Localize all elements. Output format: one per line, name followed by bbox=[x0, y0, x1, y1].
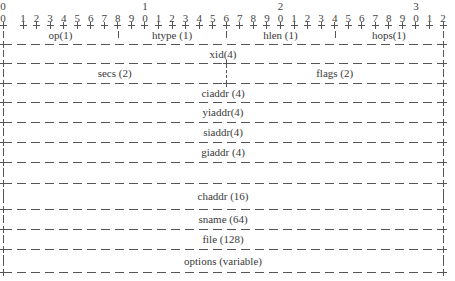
row-divider bbox=[3, 183, 443, 184]
row-corner-mark bbox=[0, 269, 7, 276]
row-right-edge bbox=[443, 69, 444, 77]
row-right-edge bbox=[443, 31, 444, 38]
row-corner-mark bbox=[440, 269, 447, 276]
row-corner-mark bbox=[0, 139, 7, 146]
bit-tick-mark bbox=[358, 22, 365, 29]
bit-tick-mark bbox=[331, 22, 338, 29]
field-separator bbox=[335, 31, 336, 38]
row-left-edge bbox=[3, 215, 4, 223]
bit-tick-mark bbox=[169, 22, 176, 29]
row-corner-mark bbox=[440, 139, 447, 146]
bit-tick-mark bbox=[318, 22, 325, 29]
row-right-edge bbox=[443, 255, 444, 266]
field-label: chaddr (16) bbox=[198, 190, 249, 202]
row-right-edge bbox=[443, 189, 444, 203]
field-separator-mark bbox=[223, 80, 230, 87]
row-corner-mark bbox=[440, 226, 447, 233]
bit-tick-mark bbox=[87, 22, 94, 29]
row-left-edge bbox=[3, 31, 4, 38]
field-label: ciaddr (4) bbox=[201, 87, 244, 99]
bit-tick-mark bbox=[60, 22, 67, 29]
bit-tick-mark bbox=[372, 22, 379, 29]
row-corner-mark bbox=[0, 41, 7, 48]
row-divider bbox=[3, 142, 443, 143]
row-divider bbox=[3, 229, 443, 230]
bit-tick-mark bbox=[141, 22, 148, 29]
field-separator-mark bbox=[223, 60, 230, 67]
field-label: options (variable) bbox=[184, 255, 262, 267]
bit-tick-mark bbox=[74, 22, 81, 29]
field-label: op(1) bbox=[49, 29, 73, 41]
bit-tick-mark bbox=[263, 22, 270, 29]
row-corner-mark bbox=[440, 99, 447, 106]
field-label: hops(1) bbox=[372, 29, 406, 41]
row-divider bbox=[3, 122, 443, 123]
row-left-edge bbox=[3, 108, 4, 116]
bit-tick-mark bbox=[114, 22, 121, 29]
field-label: secs (2) bbox=[98, 67, 132, 79]
bit-tick-mark bbox=[250, 22, 257, 29]
row-divider bbox=[3, 209, 443, 210]
row-left-edge bbox=[3, 255, 4, 266]
field-label: siaddr(4) bbox=[203, 126, 243, 138]
row-divider bbox=[3, 249, 443, 250]
row-corner-mark bbox=[440, 246, 447, 253]
field-separator bbox=[226, 31, 227, 38]
row-right-edge bbox=[443, 89, 444, 96]
row-corner-mark bbox=[440, 180, 447, 187]
field-label: sname (64) bbox=[198, 213, 247, 225]
row-right-edge bbox=[443, 235, 444, 243]
row-corner-mark bbox=[0, 180, 7, 187]
bit-tick-mark bbox=[426, 22, 433, 29]
row-corner-mark bbox=[440, 119, 447, 126]
row-corner-mark bbox=[0, 119, 7, 126]
field-separator bbox=[118, 31, 119, 38]
row-right-edge bbox=[443, 50, 444, 57]
bit-ruler-tens-digit: 2 bbox=[275, 1, 285, 12]
field-label: giaddr (4) bbox=[201, 146, 245, 158]
field-label: yiaddr(4) bbox=[203, 106, 244, 118]
row-divider bbox=[3, 162, 443, 163]
row-right-edge bbox=[443, 215, 444, 223]
bit-ruler-tens-digit: 1 bbox=[140, 1, 150, 12]
row-corner-mark bbox=[0, 80, 7, 87]
field-label: xid(4) bbox=[210, 48, 237, 60]
bit-tick-mark bbox=[155, 22, 162, 29]
bit-tick-mark bbox=[223, 22, 230, 29]
row-corner-mark bbox=[0, 206, 7, 213]
bit-tick-mark bbox=[33, 22, 40, 29]
row-right-edge bbox=[443, 128, 444, 136]
bit-tick-mark bbox=[345, 22, 352, 29]
bit-tick-mark bbox=[182, 22, 189, 29]
bit-tick-mark bbox=[236, 22, 243, 29]
bit-tick-mark bbox=[0, 22, 7, 29]
row-left-edge bbox=[3, 235, 4, 243]
bit-tick-mark bbox=[412, 22, 419, 29]
row-corner-mark bbox=[0, 246, 7, 253]
bit-tick-mark bbox=[399, 22, 406, 29]
row-corner-mark bbox=[0, 159, 7, 166]
row-corner-mark bbox=[0, 226, 7, 233]
row-corner-mark bbox=[440, 159, 447, 166]
row-corner-mark bbox=[440, 60, 447, 67]
bit-tick-mark bbox=[440, 22, 447, 29]
row-right-edge bbox=[443, 108, 444, 116]
field-label: file (128) bbox=[202, 233, 243, 245]
row-right-edge bbox=[443, 168, 444, 177]
bit-tick-mark bbox=[47, 22, 54, 29]
row-left-edge bbox=[3, 168, 4, 177]
row-divider bbox=[3, 44, 443, 45]
row-left-edge bbox=[3, 128, 4, 136]
row-corner-mark bbox=[440, 41, 447, 48]
row-divider bbox=[3, 102, 443, 103]
bit-ruler-tens-digit: 3 bbox=[411, 1, 421, 12]
row-corner-mark bbox=[440, 206, 447, 213]
bit-tick-mark bbox=[277, 22, 284, 29]
bit-tick-mark bbox=[128, 22, 135, 29]
bit-tick-mark bbox=[209, 22, 216, 29]
row-right-edge bbox=[443, 148, 444, 156]
bit-tick-mark bbox=[291, 22, 298, 29]
row-corner-mark bbox=[0, 99, 7, 106]
bit-ruler-tens-digit: 0 bbox=[0, 1, 8, 12]
row-left-edge bbox=[3, 50, 4, 57]
